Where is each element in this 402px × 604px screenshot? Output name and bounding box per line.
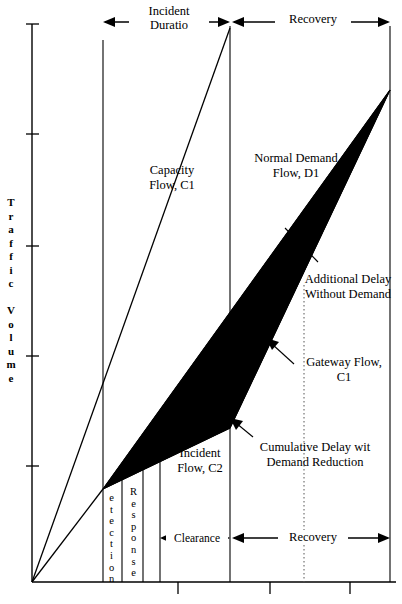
arrowhead-right (378, 533, 390, 543)
span-label-incident-duration: Incident Duratio (129, 4, 209, 32)
arrowhead-left (232, 17, 244, 27)
traffic-incident-delay-figure: T r a f f i c V o l u m e Incident Durat… (0, 0, 402, 604)
y-axis-title-letter: c (4, 277, 18, 291)
arrowhead-left (232, 533, 244, 543)
arrowhead-right (218, 17, 230, 27)
y-axis-title-letter: f (4, 250, 18, 264)
y-axis-title-gap (4, 291, 18, 305)
y-axis-title-letter: a (4, 223, 18, 237)
y-axis-title-letter: o (4, 318, 18, 332)
detection-letter: t (105, 504, 118, 516)
vertical-label-detection: e t e c t i o n (105, 492, 118, 585)
detection-letter: e (105, 515, 118, 527)
arrowhead-left (103, 17, 115, 27)
detection-letter: i (105, 550, 118, 562)
response-letter: s (127, 556, 140, 568)
diagram-canvas (0, 0, 402, 604)
incident-flow-line (32, 489, 103, 582)
span-label-recovery-bottom: Recovery (278, 530, 348, 544)
y-axis-title-letter: V (4, 304, 18, 318)
detection-letter: o (105, 562, 118, 574)
response-letter: e (127, 567, 140, 579)
label-incident-flow: Incident Flow, C2 (171, 446, 229, 475)
y-axis-title-letter: r (4, 210, 18, 224)
span-label-clearance: Clearance (166, 531, 228, 545)
label-additional-delay: Additional Delay Without Demand (297, 272, 399, 301)
leader-gateway-flow (272, 344, 294, 364)
detection-letter: n (105, 573, 118, 585)
arrowhead-right (378, 17, 390, 27)
span-label-recovery: Recovery (275, 12, 351, 26)
y-axis-title-letter: i (4, 264, 18, 278)
response-letter: e (127, 498, 140, 510)
label-cumulative-delay: Cumulative Delay wit Demand Reduction (240, 440, 390, 469)
y-axis-title-letter: T (4, 196, 18, 210)
detection-letter: c (105, 527, 118, 539)
y-axis-title-letter: u (4, 345, 18, 359)
response-letter: o (127, 532, 140, 544)
detection-letter: t (105, 538, 118, 550)
label-capacity-flow: Capacity Flow, C1 (139, 163, 205, 192)
label-gateway-flow: Gateway Flow, C1 (298, 355, 390, 384)
response-letter: s (127, 509, 140, 521)
y-axis-title-letter: e (4, 372, 18, 386)
response-letter: p (127, 521, 140, 533)
vertical-label-response: R e s p o n s e (127, 486, 140, 579)
y-axis-title: T r a f f i c V o l u m e (4, 196, 18, 385)
y-axis-title-letter: l (4, 331, 18, 345)
detection-letter: e (105, 492, 118, 504)
response-letter: n (127, 544, 140, 556)
response-letter: R (127, 486, 140, 498)
y-axis-title-letter: m (4, 358, 18, 372)
y-axis-title-letter: f (4, 237, 18, 251)
label-normal-demand-flow: Normal Demand Flow, D1 (243, 151, 349, 180)
